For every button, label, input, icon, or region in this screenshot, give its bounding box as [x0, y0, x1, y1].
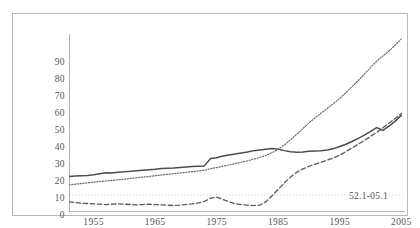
x-axis-tick-label: 1975: [206, 217, 227, 227]
y-axis-tick-label: 30: [55, 159, 65, 169]
y-axis-tick-label: 40: [55, 142, 65, 152]
y-axis-tick-label: 70: [55, 91, 65, 101]
x-axis-tick-labels: 195519651975198519952005: [69, 214, 405, 228]
series-line-solid: [69, 115, 401, 176]
y-axis-tick-label: 0: [60, 210, 65, 220]
range-annotation: 52.1-05.1: [349, 191, 388, 201]
y-axis-tick-label: 80: [55, 74, 65, 84]
x-axis-tick-label: 1965: [145, 217, 166, 227]
x-axis-tick-label: 1985: [268, 217, 289, 227]
chart-figure: -100102030405060708090 19551965197519851…: [0, 0, 420, 228]
y-axis-tick-label: 50: [55, 125, 65, 135]
y-axis-tick-label: -10: [51, 227, 65, 228]
x-axis-tick-label: 2005: [391, 217, 412, 227]
x-axis-tick-label: 1995: [329, 217, 350, 227]
y-axis-tick-labels: -100102030405060708090: [13, 34, 65, 212]
y-axis-tick-label: 90: [55, 57, 65, 67]
series-line-dotted: [69, 39, 401, 185]
y-axis-tick-label: 60: [55, 108, 65, 118]
chart-canvas: [69, 34, 405, 212]
figure-frame: -100102030405060708090 19551965197519851…: [12, 13, 408, 216]
x-axis-tick-label: 1955: [83, 217, 104, 227]
y-axis-tick-label: 20: [55, 176, 65, 186]
y-axis-tick-label: 10: [55, 193, 65, 203]
plot-area: [69, 34, 405, 212]
